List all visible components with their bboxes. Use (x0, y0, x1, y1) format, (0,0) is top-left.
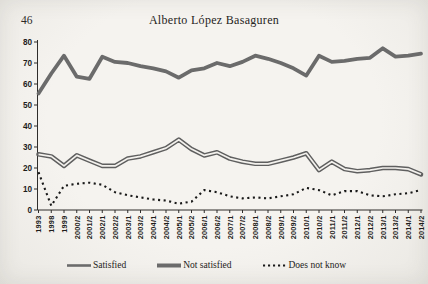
x-tick-label: 1993 (34, 216, 43, 233)
x-tick-label: 2007/1 (226, 215, 235, 239)
y-tick-label: 40 (23, 122, 33, 131)
x-tick-label: 2011/2 (340, 216, 349, 239)
x-tick-label: 2004/2 (162, 216, 171, 240)
legend-item-not-satisfied: Not satisfied (156, 260, 231, 270)
series-satisfied (39, 140, 422, 175)
x-tick-label: 2012/2 (366, 216, 375, 240)
x-tick-label: 2014/2 (417, 216, 426, 240)
x-tick-label: 2006/1 (200, 216, 209, 240)
x-tick-label: 2003/2 (136, 216, 145, 240)
x-tick-label: 1999 (60, 216, 69, 233)
x-tick-label: 2002/1 (98, 216, 107, 240)
x-tick-label: 2011/1 (328, 216, 337, 239)
legend-label-satisfied: Satisfied (93, 260, 126, 270)
y-tick-label: 10 (23, 185, 33, 194)
y-axis-labels: 01020304050607080 (23, 38, 33, 215)
y-tick-label: 0 (27, 206, 32, 215)
legend-label-not-satisfied: Not satisfied (183, 260, 231, 270)
does-not-know-dotted-swatch (262, 261, 288, 270)
x-tick-label: 2006/2 (213, 216, 222, 240)
y-tick-label: 80 (23, 38, 33, 47)
x-tick-label: 2000/2 (73, 216, 82, 240)
y-tick-label: 60 (23, 80, 33, 89)
x-tick-label: 2013/1 (379, 216, 388, 240)
satisfaction-line-chart: 010203040506070801993199819992000/22001/… (0, 0, 428, 284)
not-satisfied-line-swatch (156, 261, 182, 270)
y-tick-label: 30 (23, 143, 33, 152)
legend-label-does-not-know: Does not know (289, 260, 347, 270)
book-page: 46 Alberto López Basaguren 0102030405060… (0, 0, 428, 284)
x-tick-label: 2013/2 (391, 216, 400, 240)
x-tick-label: 2005/1 (175, 216, 184, 240)
y-tick-label: 50 (23, 101, 33, 110)
series-does-not-know (39, 172, 422, 206)
x-tick-label: 1998 (47, 216, 56, 233)
x-tick-label: 2010/1 (302, 216, 311, 240)
x-tick-label: 2009/1 (277, 216, 286, 240)
legend-item-does-not-know: Does not know (262, 260, 347, 270)
x-tick-label: 2002/2 (111, 216, 120, 240)
x-tick-label: 2010/2 (315, 216, 324, 240)
x-tick-label: 2007/2 (238, 215, 247, 239)
x-tick-label: 2014/1 (404, 216, 413, 240)
x-tick-label: 2001/2 (85, 216, 94, 240)
y-tick-label: 70 (23, 59, 33, 68)
x-tick-label: 2004/1 (149, 216, 158, 240)
x-tick-label: 2005/2 (187, 216, 196, 240)
x-axis-labels: 1993199819992000/22001/22002/12002/22003… (34, 215, 426, 239)
x-tick-label: 2003/1 (124, 216, 133, 240)
y-tick-label: 20 (23, 164, 33, 173)
x-tick-label: 2008/1 (251, 216, 260, 240)
legend-item-satisfied: Satisfied (66, 260, 126, 270)
satisfied-line-swatch (66, 261, 92, 270)
x-tick-label: 2008/2 (264, 216, 273, 240)
x-tick-label: 2009/2 (289, 216, 298, 240)
series-not-satisfied (39, 48, 422, 93)
x-tick-label: 2012/1 (353, 216, 362, 240)
chart-legend: Satisfied Not satisfied Does not know (0, 260, 420, 270)
